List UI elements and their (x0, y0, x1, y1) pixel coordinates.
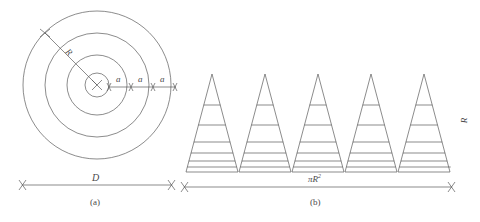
height-label-R: R (460, 118, 469, 124)
panel-a-caption: (a) (90, 198, 100, 207)
base-label-exponent: 2 (318, 173, 321, 179)
base-label-main: πR (308, 174, 318, 184)
segment-dimension-line (107, 83, 177, 91)
triangle-5 (398, 74, 451, 172)
panel-b-caption: (b) (310, 198, 321, 207)
diameter-label-D: D (92, 173, 99, 183)
triangle-4 (345, 74, 397, 172)
panel-b-triangles (186, 74, 451, 172)
triangle-2 (239, 74, 291, 172)
segment-label-a2: a (138, 75, 143, 84)
segment-label-a1: a (116, 75, 121, 84)
segment-label-a3: a (160, 75, 165, 84)
base-label-piR2: πR2 (308, 174, 321, 184)
triangle-3 (292, 74, 344, 172)
figure-canvas (0, 0, 480, 222)
triangle-1 (186, 74, 238, 172)
